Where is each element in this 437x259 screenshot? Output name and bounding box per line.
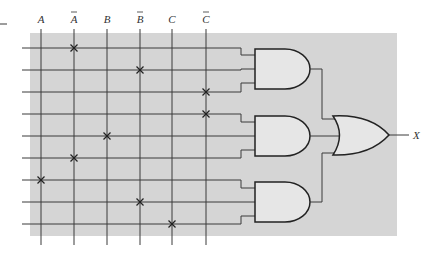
and-gate-1 (255, 49, 310, 89)
input-label-a-bar: A (70, 13, 78, 25)
input-label-c-bar: C (202, 13, 210, 25)
output-label-x: X (412, 129, 421, 141)
and-gate-2 (255, 116, 310, 156)
pla-diagram: AABBCC X (0, 0, 437, 259)
input-labels: AABBCC (37, 12, 211, 25)
and-gate-3 (255, 182, 310, 222)
input-label-c: C (168, 13, 176, 25)
input-label-b: B (104, 13, 111, 25)
input-label-a: A (37, 13, 45, 25)
input-label-b-bar: B (137, 13, 144, 25)
